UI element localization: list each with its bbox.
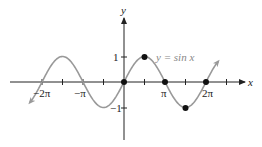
tick-label-neg1: −1 xyxy=(110,102,122,114)
sine-graph: y x −2π −π π 2π 1 −1 y = sin x xyxy=(0,0,262,147)
tick-label-negpi: −π xyxy=(74,87,86,99)
tick-label-pi: π xyxy=(161,87,167,99)
tick-label-neg2pi: −2π xyxy=(33,87,51,99)
x-axis-label: x xyxy=(247,76,253,88)
tick-label-1: 1 xyxy=(113,51,119,63)
y-axis-label: y xyxy=(120,4,126,16)
function-label: y = sin x xyxy=(155,51,194,63)
tick-label-2pi: 2π xyxy=(202,87,214,99)
